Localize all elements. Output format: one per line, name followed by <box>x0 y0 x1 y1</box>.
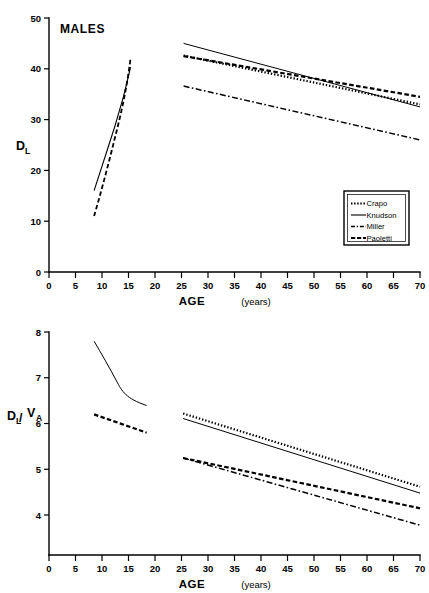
figure-container: 0 10 20 30 40 50 <box>0 0 429 593</box>
x-tick-label: 30 <box>203 280 214 291</box>
x-tick-label: 0 <box>46 563 51 574</box>
x-tick-label: 70 <box>415 563 426 574</box>
legend-label-miller: Miller <box>367 222 386 231</box>
x-tick-label: 20 <box>150 280 161 291</box>
legend-label-crapo: Crapo <box>367 199 388 208</box>
x-tick-label: 55 <box>335 563 346 574</box>
curve-paoletti-youth-bottom <box>94 414 147 432</box>
x-tick-label: 60 <box>362 563 373 574</box>
y-tick-label: 7 <box>36 372 41 383</box>
x-tick-label: 60 <box>362 280 373 291</box>
x-tick-label: 5 <box>73 280 79 291</box>
chart-panel-dl-va: 8 7 6 5 4 0 <box>0 310 429 593</box>
curve-knudson-adult-bottom <box>183 419 420 494</box>
x-tick-label: 0 <box>46 280 51 291</box>
y-ticks-bottom <box>44 332 49 515</box>
x-tick-label: 5 <box>73 563 79 574</box>
legend-dl: Crapo Knudson Miller Paoletti <box>344 191 409 245</box>
panel-title-males: MALES <box>60 22 105 36</box>
x-tick-label: 65 <box>388 563 399 574</box>
x-axis-unit-top: (years) <box>241 296 271 307</box>
y-tick-label: 20 <box>30 165 41 176</box>
y-tick-label: 4 <box>36 510 42 521</box>
legend-label-paoletti: Paoletti <box>367 234 393 243</box>
curve-paoletti-adult-top <box>184 56 420 97</box>
x-tick-label: 25 <box>176 563 187 574</box>
x-tick-label: 30 <box>203 563 214 574</box>
y-axis-title-bottom-main2: V <box>27 406 36 420</box>
curve-paoletti-adult-bottom <box>183 458 420 508</box>
x-tick-label: 20 <box>150 563 161 574</box>
y-tick-label: 5 <box>36 464 42 475</box>
y-axis-title-bottom: D <box>7 409 16 423</box>
x-tick-label: 25 <box>176 280 187 291</box>
x-axis-title-top: AGE <box>179 295 205 307</box>
x-tick-label: 15 <box>123 563 134 574</box>
curve-paoletti-youth-top <box>94 58 131 217</box>
y-tick-label: 30 <box>30 114 41 125</box>
x-tick-label: 40 <box>256 280 267 291</box>
curve-miller-adult-bottom <box>183 458 420 525</box>
x-tick-label: 45 <box>282 280 293 291</box>
x-ticks-bottom <box>49 555 420 561</box>
chart-panel-dl: 0 10 20 30 40 50 <box>0 0 429 310</box>
y-tick-label: 0 <box>36 267 41 278</box>
curve-crapo-adult-bottom <box>183 414 420 487</box>
x-tick-label: 50 <box>309 280 320 291</box>
curve-knudson-youth-bottom <box>94 341 147 405</box>
chart-svg-dl: 0 10 20 30 40 50 <box>0 0 429 310</box>
x-tick-label: 65 <box>388 280 399 291</box>
x-tick-label: 10 <box>97 280 108 291</box>
y-ticks-top <box>44 18 49 272</box>
chart-svg-dl-va: 8 7 6 5 4 0 <box>0 310 429 593</box>
x-axis-unit-bottom: (years) <box>241 579 271 590</box>
y-tick-label: 10 <box>30 216 41 227</box>
x-tick-label: 45 <box>282 563 293 574</box>
x-ticks-top <box>49 272 420 278</box>
x-tick-label: 35 <box>229 563 240 574</box>
legend-label-knudson: Knudson <box>367 211 397 220</box>
x-axis-title-bottom: AGE <box>179 578 205 590</box>
x-tick-label: 70 <box>415 280 426 291</box>
y-tick-label: 8 <box>36 327 41 338</box>
y-tick-label: 40 <box>30 63 41 74</box>
x-tick-label: 15 <box>123 280 134 291</box>
x-tick-label: 40 <box>256 563 267 574</box>
y-tick-label: 50 <box>30 13 41 24</box>
curve-miller-adult-top <box>184 86 420 140</box>
x-tick-label: 55 <box>335 280 346 291</box>
y-axis-title-bottom-slash: / <box>19 411 23 425</box>
x-tick-label: 50 <box>309 563 320 574</box>
x-tick-label: 10 <box>97 563 108 574</box>
curve-knudson-youth-top <box>94 67 131 191</box>
x-tick-label: 35 <box>229 280 240 291</box>
y-axis-title-top: D <box>16 139 25 153</box>
y-axis-title-top-sub: L <box>25 146 30 156</box>
y-axis-title-bottom-sub2: A <box>36 413 42 423</box>
